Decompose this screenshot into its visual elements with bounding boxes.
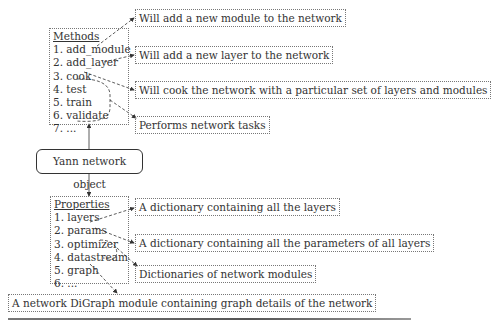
method-item: 4. test bbox=[53, 83, 131, 96]
properties-heading: Properties bbox=[54, 198, 128, 211]
method-item: 6. validate bbox=[53, 109, 131, 122]
method-item: 7. ... bbox=[53, 122, 131, 135]
method-item: 1. add_module bbox=[53, 43, 131, 56]
property-item: 5. graph bbox=[54, 264, 128, 277]
callout-modules: Dictionaries of network modules bbox=[135, 265, 316, 283]
property-item: 4. datastream bbox=[54, 251, 128, 264]
properties-list: Properties 1. layers 2. params 3. optimi… bbox=[54, 198, 128, 290]
method-item: 3. cook bbox=[53, 70, 131, 83]
property-item: 2. params bbox=[54, 224, 128, 237]
callout-cook: Will cook the network with a particular … bbox=[135, 81, 491, 99]
callout-add-layer: Will add a new layer to the network bbox=[135, 46, 333, 64]
yann-network-object-node: Yann network object bbox=[36, 149, 143, 174]
method-item: 5. train bbox=[53, 96, 131, 109]
callout-params: A dictionary containing all the paramete… bbox=[135, 234, 434, 252]
callout-network-tasks: Performs network tasks bbox=[135, 116, 270, 134]
property-item: 3. optimizer bbox=[54, 238, 128, 251]
methods-heading: Methods bbox=[53, 30, 131, 43]
callout-add-module: Will add a new module to the network bbox=[135, 9, 346, 27]
bottom-divider bbox=[8, 318, 411, 320]
property-item: 6. ... bbox=[54, 277, 128, 290]
property-item: 1. layers bbox=[54, 211, 128, 224]
methods-list: Methods 1. add_module 2. add_layer 3. co… bbox=[53, 30, 131, 136]
callout-layers: A dictionary containing all the layers bbox=[135, 198, 340, 216]
method-item: 2. add_layer bbox=[53, 56, 131, 69]
callout-graph: A network DiGraph module containing grap… bbox=[8, 294, 376, 312]
